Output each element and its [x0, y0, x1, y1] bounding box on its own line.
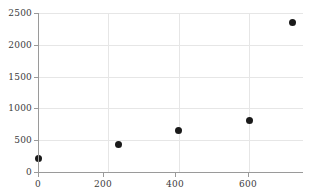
x-tick-mark [103, 173, 104, 177]
y-tick-label: 1000 [0, 103, 32, 113]
x-tick-label: 0 [18, 179, 58, 189]
gridline-horizontal [38, 13, 303, 14]
data-point [246, 117, 253, 124]
data-point [289, 19, 296, 26]
gridline-vertical [249, 13, 250, 172]
gridline-horizontal [38, 45, 303, 46]
gridline-horizontal [38, 140, 303, 141]
gridline-horizontal [38, 108, 303, 109]
y-tick-label: 2500 [0, 8, 32, 18]
y-tick-mark [34, 140, 38, 141]
x-tick-label: 400 [155, 179, 195, 189]
y-tick-label: 500 [0, 135, 32, 145]
y-tick-mark [34, 108, 38, 109]
gridline-vertical [108, 13, 109, 172]
data-point [175, 127, 182, 134]
x-tick-label: 600 [228, 179, 268, 189]
y-tick-mark [34, 13, 38, 14]
scatter-chart: 2500 2000 1500 1000 500 0 0 200 400 600 [0, 0, 309, 195]
gridline-horizontal [38, 77, 303, 78]
x-axis-line [38, 172, 303, 173]
x-tick-mark [175, 173, 176, 177]
y-tick-label: 2000 [0, 40, 32, 50]
y-tick-mark [34, 45, 38, 46]
x-tick-label: 200 [83, 179, 123, 189]
plot-area [38, 13, 303, 172]
data-point [115, 141, 122, 148]
x-tick-mark [38, 173, 39, 177]
gridline-vertical [179, 13, 180, 172]
y-tick-label: 1500 [0, 72, 32, 82]
x-tick-mark [248, 173, 249, 177]
y-axis-line [38, 13, 39, 173]
y-tick-mark [34, 77, 38, 78]
y-tick-label: 0 [0, 167, 32, 177]
